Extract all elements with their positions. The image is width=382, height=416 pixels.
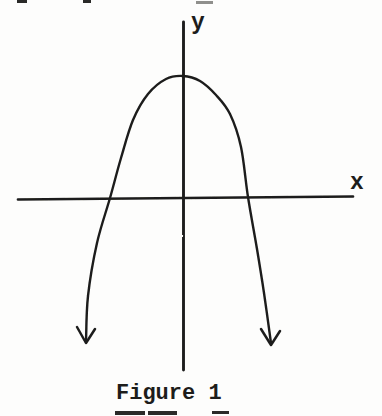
y-axis-label: y xyxy=(191,12,205,35)
figure-canvas xyxy=(0,0,382,416)
parabola-curve xyxy=(86,76,271,343)
figure-caption: Figure 1 xyxy=(116,382,222,406)
scanned-figure-page: y x Figure 1 xyxy=(0,0,382,416)
x-axis xyxy=(18,197,353,200)
x-axis-label: x xyxy=(350,172,364,195)
scan-artifact-bottom-2 xyxy=(148,411,177,415)
scan-artifact-bottom-3 xyxy=(212,411,229,414)
scan-artifact-bottom-1 xyxy=(115,411,145,415)
